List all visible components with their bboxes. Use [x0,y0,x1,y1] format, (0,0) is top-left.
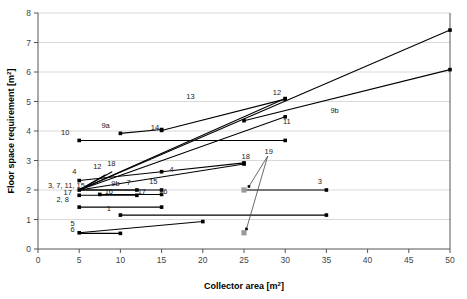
x-tick-label: 50 [445,255,455,265]
data-point-marker [242,162,246,166]
y-tick-label: 2 [26,185,31,195]
y-tick-label: 7 [26,38,31,48]
series-label-9b: 9b [330,106,338,115]
data-point-marker [98,193,102,197]
series-label-19: 19 [265,147,273,156]
x-tick-label: 40 [363,255,373,265]
y-tick-label: 4 [26,126,31,136]
cluster-label: 3, 7, 11, 15 [48,181,85,190]
y-tick-label: 1 [26,215,31,225]
series-label-9b-small: 9b [111,179,119,188]
callout-endpoint-marker [245,228,248,231]
y-tick-label: 0 [26,244,31,254]
series-label-14: 14 [151,123,159,132]
series-label-4b: 4 [169,165,173,174]
data-point-marker [119,213,123,217]
series-label-11: 11 [283,117,291,126]
floor-space-vs-collector-area-chart: 05101520253035404550012345678Collector a… [0,0,467,299]
series-label-4a: 4 [72,167,76,176]
gray-data-point-marker [241,187,246,192]
data-point-marker [325,188,329,192]
series-label-7: 7 [127,178,131,187]
data-point-marker [201,220,205,224]
gray-data-point-marker [241,230,246,235]
x-tick-label: 15 [157,255,167,265]
y-tick-label: 8 [26,8,31,18]
x-tick-label: 5 [77,255,82,265]
series-label-16: 16 [159,187,167,196]
series-label-9a: 9a [101,121,110,130]
data-point-marker [160,170,164,174]
series-label-10: 10 [61,128,69,137]
chart-container: 05101520253035404550012345678Collector a… [0,0,467,299]
data-point-marker [119,232,123,236]
series-label-2, 8: 2, 8 [56,195,69,204]
data-point-marker [160,205,164,209]
series-label-12b: 12 [93,162,101,171]
data-point-marker [77,139,81,143]
series-label-16b: 16 [105,187,113,196]
x-tick-label: 10 [116,255,126,265]
series-label-15: 15 [149,177,157,186]
x-tick-label: 30 [280,255,290,265]
data-point-marker [242,119,246,123]
x-axis-title: Collector area [m2] [204,281,284,292]
series-label-13: 13 [186,92,194,101]
x-tick-label: 0 [36,255,41,265]
x-tick-label: 45 [404,255,414,265]
data-point-marker [448,28,452,32]
y-tick-label: 6 [26,67,31,77]
data-point-marker [283,97,287,101]
series-label-6: 6 [71,225,75,234]
series-label-1: 1 [107,204,111,213]
data-point-marker [119,132,123,136]
data-point-marker [77,231,81,235]
y-tick-label: 5 [26,97,31,107]
y-axis-title: Floor space requirement [m2] [6,69,17,194]
data-point-marker [283,139,287,143]
series-label-18b: 18 [241,152,249,161]
data-point-marker [77,205,81,209]
x-tick-label: 35 [322,255,332,265]
series-label-3: 3 [318,177,322,186]
data-point-marker [77,194,81,198]
y-tick-label: 3 [26,156,31,166]
series-label-12: 12 [273,88,281,97]
data-point-marker [160,129,164,133]
data-point-marker [325,213,329,217]
series-label-18: 18 [107,159,115,168]
x-tick-label: 20 [198,255,208,265]
callout-endpoint-marker [248,185,251,188]
x-tick-label: 25 [239,255,249,265]
series-label-17b: 17 [138,187,146,196]
data-point-marker [448,68,452,72]
